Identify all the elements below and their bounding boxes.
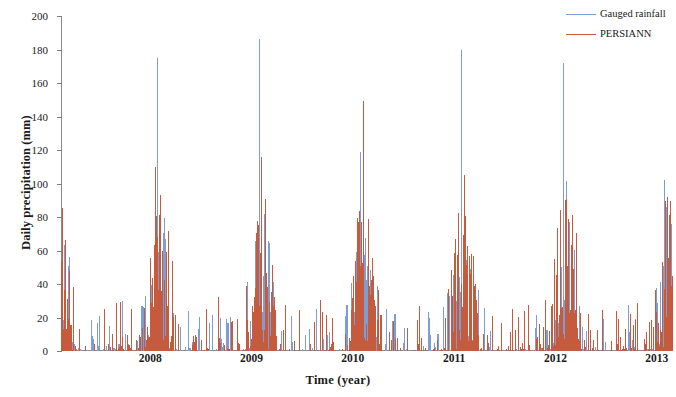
precipitation-chart: Daily precipitation (mm) Time (year) 020… [0,0,676,397]
y-axis-tick-mark [57,251,62,252]
y-axis-tick: 160 [14,78,48,89]
y-axis-tick: 180 [14,44,48,55]
y-axis-tick-labels: 020406080100120140160180200 [14,0,48,397]
legend-item-persiann: PERSIANN [566,26,676,42]
x-axis-tick: 2013 [645,352,668,364]
y-axis-tick-mark [57,184,62,185]
y-axis-tick-mark [57,150,62,151]
x-axis-tick: 2010 [341,352,364,364]
x-axis-tick: 2011 [443,352,465,364]
y-axis-tick-mark [57,16,62,17]
x-axis-tick: 2012 [544,352,567,364]
legend-label: Gauged rainfall [600,9,666,20]
y-axis-tick: 80 [14,212,48,223]
x-axis-label: Time (year) [0,373,676,388]
legend-swatch-icon [566,14,596,15]
y-axis-tick: 120 [14,145,48,156]
y-axis-tick: 200 [14,11,48,22]
y-axis-tick: 60 [14,245,48,256]
y-axis-tick-mark [57,83,62,84]
y-axis-tick-mark [57,50,62,51]
legend-swatch-icon [566,34,596,35]
y-axis-tick: 40 [14,279,48,290]
plot-area [61,16,673,351]
x-axis-tick: 2008 [139,352,162,364]
y-axis-tick-mark [57,351,62,352]
y-axis-tick: 100 [14,178,48,189]
series-canvas [61,16,673,351]
y-axis-tick-mark [57,284,62,285]
y-axis-tick: 0 [14,346,48,357]
legend: Gauged rainfall PERSIANN [566,6,676,46]
y-axis-tick-mark [57,117,62,118]
y-axis-tick: 140 [14,111,48,122]
legend-item-gauged-rainfall: Gauged rainfall [566,6,676,22]
y-axis-tick-mark [57,217,62,218]
series-gauged-rainfall [61,39,672,351]
x-axis-tick: 2009 [240,352,263,364]
legend-label: PERSIANN [600,29,651,40]
y-axis-tick: 20 [14,312,48,323]
y-axis-tick-mark [57,318,62,319]
